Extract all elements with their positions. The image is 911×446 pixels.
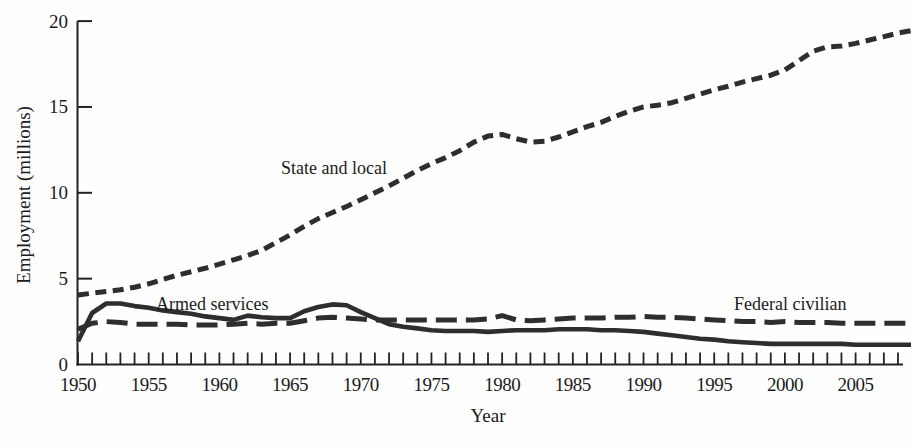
curve-label-armed-services: Armed services (156, 294, 268, 314)
y-tick-label: 0 (59, 354, 69, 375)
y-tick-label: 10 (49, 182, 68, 203)
curve-label-state-and-local: State and local (281, 158, 387, 178)
x-tick-label: 2000 (767, 374, 803, 395)
x-tick-label: 1970 (343, 374, 379, 395)
x-tick-label: 1965 (272, 374, 308, 395)
chart-generated: 0510152019501955196019651970197519801985… (49, 11, 911, 395)
x-tick-label: 1995 (696, 374, 732, 395)
chart-canvas: 0510152019501955196019651970197519801985… (0, 0, 911, 446)
x-tick-label: 1950 (60, 374, 96, 395)
government-employment-chart: 0510152019501955196019651970197519801985… (0, 0, 911, 446)
y-tick-label: 5 (59, 268, 69, 289)
series-line-state-and-local (78, 31, 911, 296)
x-tick-label: 1975 (413, 374, 449, 395)
y-tick-label: 15 (49, 96, 68, 117)
y-axis-title: Employment (millions) (13, 106, 35, 284)
x-axis-title: Year (470, 405, 506, 426)
x-tick-label: 1980 (484, 374, 520, 395)
x-tick-label: 1960 (201, 374, 237, 395)
y-tick-label: 20 (49, 11, 68, 32)
x-tick-label: 1985 (555, 374, 591, 395)
x-tick-label: 1955 (131, 374, 167, 395)
x-tick-label: 1990 (626, 374, 662, 395)
x-tick-label: 2005 (838, 374, 874, 395)
curve-label-federal-civilian: Federal civilian (734, 294, 846, 314)
